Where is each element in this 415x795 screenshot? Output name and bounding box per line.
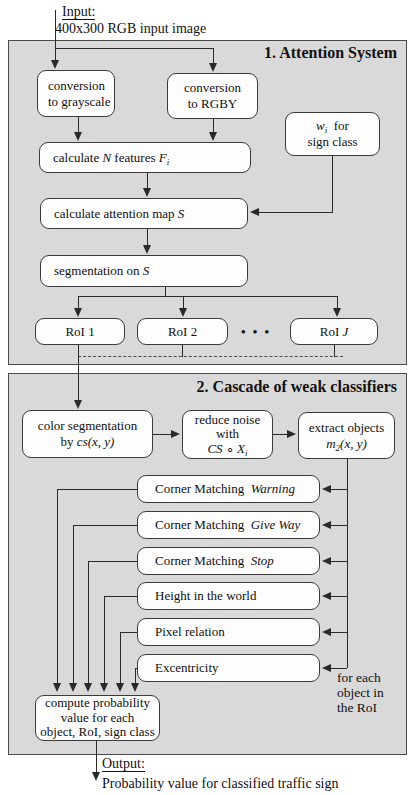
arrowhead-excentricity-compute (131, 683, 139, 692)
out-height-v (104, 596, 105, 683)
out-warning-h (57, 489, 137, 490)
node-corner-matching-giveway: Corner Matching Give Way (137, 511, 320, 539)
arrowhead-to-rgby (209, 63, 217, 72)
arrowhead-weights-attmap (250, 208, 259, 216)
out-pixel-v (120, 632, 121, 683)
flowchart-canvas: Input: 400x300 RGB input image 1. Attent… (0, 0, 415, 795)
stub-roij (334, 345, 335, 357)
connector-attmap-segmentation (147, 229, 148, 246)
stub-stop-in (331, 561, 347, 562)
section2-title: 2. Cascade of weak classifiers (197, 378, 397, 396)
output-description: Probability value for classified traffic… (102, 776, 339, 791)
node-reduce-noise: reduce noisewithCS ∘ Xi (182, 410, 273, 459)
arrowhead-to-roi2 (179, 308, 187, 317)
arrowhead-to-roij (333, 308, 341, 317)
arrowhead-pixel-compute (116, 683, 124, 692)
node-compute-probability: compute probabilityvalue for eachobject,… (35, 695, 160, 741)
out-pixel-h (120, 632, 137, 633)
arrowhead-grayscale-features (74, 132, 82, 141)
stub-height-in (331, 596, 347, 597)
node-corner-matching-warning: Corner Matching Warning (137, 475, 320, 503)
arrowhead-to-grayscale (51, 60, 59, 69)
connector-rgby-features (213, 119, 214, 133)
dashed-roi-line (78, 356, 343, 357)
arrowhead-roi1-colorseg (74, 400, 82, 409)
stub-roi2 (182, 345, 183, 357)
connector-output (96, 741, 97, 773)
connector-input-branch (55, 48, 214, 49)
arrowhead-attmap-segmentation (143, 245, 151, 254)
arrowhead-stop-in (322, 557, 331, 565)
node-excentricity: Excentricity (137, 654, 320, 682)
arrowhead-colorseg-noise (171, 430, 180, 438)
input-label-text: Input: (62, 4, 95, 20)
output-label-text: Output: (102, 756, 145, 772)
arrowhead-pixel-in (322, 628, 331, 636)
node-attention-map: calculate attention map S (40, 198, 248, 229)
out-giveway-v (73, 525, 74, 683)
stub-warning-in (331, 489, 347, 490)
for-each-object-note: for eachobject inthe RoI (337, 670, 384, 715)
arrowhead-height-in (322, 592, 331, 600)
arrowhead-stop-compute (84, 683, 92, 692)
node-conversion-grayscale: conversionto grayscale (37, 70, 115, 117)
out-stop-v (88, 561, 89, 683)
connector-grayscale-features (78, 117, 79, 133)
arrowhead-features-attmap (143, 188, 151, 197)
connector-weights-left (258, 212, 333, 213)
node-weights-sign-class: wi forsign class (285, 112, 380, 156)
connector-roi1-colorseg (78, 345, 79, 401)
arrowhead-giveway-in (322, 521, 331, 529)
node-roi-2: RoI 2 (137, 318, 228, 345)
arrowhead-warning-compute (53, 683, 61, 692)
arrowhead-giveway-compute (69, 683, 77, 692)
arrowhead-height-compute (100, 683, 108, 692)
arrowhead-rgby-features (209, 132, 217, 141)
arrowhead-to-roi1 (74, 308, 82, 317)
arrowhead-noise-extract (287, 430, 296, 438)
connector-roi-branch (78, 296, 338, 297)
node-roi-1: RoI 1 (35, 318, 125, 345)
stub-giveway-in (331, 525, 347, 526)
section1-title: 1. Attention System (264, 44, 397, 62)
arrowhead-output (92, 772, 100, 781)
node-extract-objects: extract objectsm2(x, y) (298, 412, 395, 459)
connector-to-rgby (213, 48, 214, 63)
arrowhead-excentricity-in (322, 664, 331, 672)
node-height-in-world: Height in the world (137, 582, 320, 610)
node-color-segmentation: color segmentationby cs(x, y) (22, 410, 153, 458)
out-warning-v (57, 489, 58, 683)
connector-features-attmap (147, 173, 148, 189)
out-giveway-h (73, 525, 137, 526)
arrowhead-warning-in (322, 485, 331, 493)
connector-weights-down (332, 156, 333, 213)
node-roi-j: RoI J (290, 318, 378, 345)
input-label: Input: (62, 4, 95, 20)
node-calculate-features: calculate N features Fi (39, 142, 251, 173)
node-conversion-rgby: conversionto RGBY (167, 73, 258, 119)
input-description: 400x300 RGB input image (55, 21, 206, 36)
connector-extract-down (347, 459, 348, 668)
node-segmentation: segmentation on S (40, 255, 248, 287)
output-label: Output: (102, 756, 145, 772)
connector-colorseg-noise (153, 434, 173, 435)
out-height-h (104, 596, 137, 597)
stub-pixel-in (331, 632, 347, 633)
roi-ellipsis: • • • (238, 318, 274, 345)
node-pixel-relation: Pixel relation (137, 618, 320, 646)
node-corner-matching-stop: Corner Matching Stop (137, 547, 320, 575)
out-stop-h (88, 561, 137, 562)
